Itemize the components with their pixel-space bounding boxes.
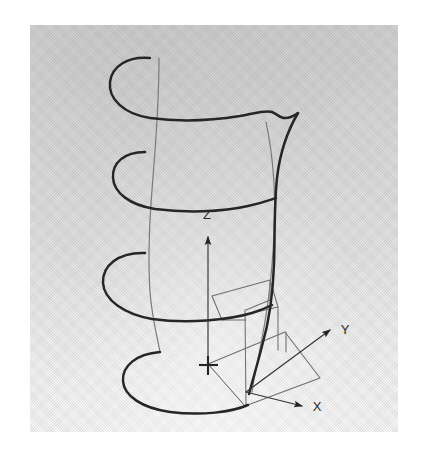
helix-turn-top (110, 58, 298, 120)
helix-turn-bottom (123, 352, 248, 414)
generator-right-inner (252, 122, 275, 392)
x-axis-line (246, 392, 302, 406)
line-drawing: Z Y X (0, 0, 428, 456)
y-axis-label: Y (341, 322, 350, 337)
surface-generators (149, 58, 275, 392)
z-axis-label: Z (203, 207, 211, 222)
helix-turn-third (103, 253, 272, 321)
generator-left (149, 58, 160, 352)
helix-curves (103, 58, 298, 414)
helix-turn-second (113, 152, 276, 211)
silhouette-right (249, 113, 298, 394)
figure-root: Z Y X (0, 0, 428, 456)
x-axis-label: X (313, 399, 322, 414)
